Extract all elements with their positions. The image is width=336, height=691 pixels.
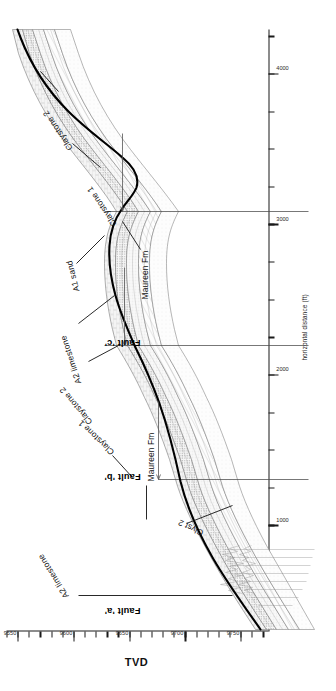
fault-label-b: Fault 'b' [104,471,140,481]
annotation-leader-lines [0,0,336,691]
leader-clyst-2-left [186,505,232,523]
leader-maureen-fm-mid [122,221,140,249]
fault-label-c: Fault 'c' [104,337,140,347]
rotated-plot-frame: 95509600965097009750 1000200030004000 TV… [0,0,336,691]
fault-trace-marks [120,133,160,479]
fault-label-a: Fault 'a' [104,605,140,615]
leader-claystone-1-right [72,143,100,167]
leader-a1-sand-mid [76,235,104,263]
leader-claystone-2-right [40,71,58,91]
annotation-maureen-fm-mid: Maureen Fm [140,250,148,299]
leader-a2-limestone-mid [78,295,114,323]
geological-cross-section-figure: 95509600965097009750 1000200030004000 TV… [0,0,336,691]
annotation-maureen-fm-left: Maureen Fm [146,432,154,481]
